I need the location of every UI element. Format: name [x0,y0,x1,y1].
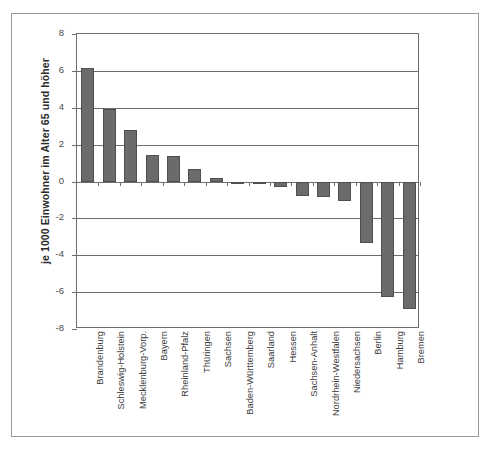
bar [81,68,94,181]
bar [317,182,330,198]
y-tick-label: 6 [59,64,64,75]
x-tick [249,182,250,186]
x-tick [227,182,228,186]
gridline--4 [77,255,418,256]
bar [338,182,351,201]
y-tick-2: 2 [72,145,77,146]
gridline-6 [77,71,418,72]
y-tick-0: 0 [72,182,77,183]
y-tick--2: -2 [72,218,77,219]
x-tick [420,182,421,186]
y-axis-title: je 1000 Einwohner im Alter 65 und höher [39,21,51,301]
bar [360,182,373,244]
x-axis-label-text: Bremen [416,331,426,364]
x-axis-label: Schleswig-Holstein [112,331,122,410]
x-axis-label-text: Niedersachsen [352,331,362,393]
y-tick-label: -8 [56,322,64,333]
bar [253,182,266,184]
bar [124,130,137,182]
x-axis-label-text: Berlin [373,331,383,355]
x-axis-label-text: Mecklenburg-Vorp. [138,331,148,409]
y-tick-label: 4 [59,101,64,112]
x-axis-label-text: Brandenburg [95,331,105,385]
bar [103,109,116,182]
y-tick--8: -8 [72,329,77,330]
x-tick [356,182,357,186]
x-axis-label-text: Hamburg [395,331,405,369]
x-axis-label: Mecklenburg-Vorp. [134,331,144,409]
x-tick [377,182,378,186]
x-axis-label: Bremen [412,331,422,364]
y-tick--4: -4 [72,255,77,256]
x-tick [313,182,314,186]
x-axis-label-text: Thüringen [202,331,212,373]
bar [167,156,180,182]
x-axis-label: Niedersachsen [348,331,358,393]
x-axis-label: Thüringen [198,331,208,373]
bar [188,169,201,182]
y-tick-label: 8 [59,27,64,38]
x-axis-label-text: Sachsen-Anhalt [309,331,319,397]
x-axis-labels: BrandenburgSchleswig-HolsteinMecklenburg… [76,331,419,436]
x-axis-label-text: Hessen [288,331,298,363]
x-axis-label: Bayern [155,331,165,360]
x-tick [206,182,207,186]
x-axis-label: Brandenburg [91,331,101,385]
x-axis-label-text: Rheinland-Pfalz [180,331,190,397]
bar [296,182,309,197]
y-tick--6: -6 [72,292,77,293]
x-axis-label-text: Sachsen [223,331,233,367]
x-axis-label-text: Baden-Württemberg [245,331,255,415]
gridline--6 [77,292,418,293]
plot-area: 86420-2-4-6-8 [76,33,419,328]
x-axis-label: Saarland [262,331,272,368]
x-axis-label-text: Schleswig-Holstein [116,331,126,410]
x-axis-label: Nordrhein-Westfalen [327,331,337,416]
bar [274,182,287,188]
gridline-4 [77,108,418,109]
bar [381,182,394,297]
x-axis-label-text: Saarland [266,331,276,368]
x-axis-label: Sachsen [219,331,229,367]
x-axis-label: Hessen [284,331,294,363]
x-tick [399,182,400,186]
x-axis-label: Berlin [369,331,379,355]
y-tick-label: 2 [59,138,64,149]
x-tick [334,182,335,186]
bar [210,178,223,182]
x-axis-label-text: Bayern [159,331,169,360]
x-tick [141,182,142,186]
y-tick-label: 0 [59,175,64,186]
bar [403,182,416,309]
y-tick-label: -2 [56,211,64,222]
x-tick [270,182,271,186]
bar [146,155,159,182]
bar [231,182,244,184]
y-tick-8: 8 [72,34,77,35]
x-tick [184,182,185,186]
x-tick [98,182,99,186]
x-axis-label: Sachsen-Anhalt [305,331,315,397]
y-tick-6: 6 [72,71,77,72]
y-tick-4: 4 [72,108,77,109]
x-tick [163,182,164,186]
x-tick [120,182,121,186]
x-axis-label: Baden-Württemberg [241,331,251,415]
x-tick [291,182,292,186]
x-axis-label: Hamburg [391,331,401,369]
x-axis-label-text: Nordrhein-Westfalen [331,331,341,416]
chart-figure: je 1000 Einwohner im Alter 65 und höher … [0,0,493,451]
y-tick-label: -4 [56,248,64,259]
y-tick-label: -6 [56,285,64,296]
x-axis-label: Rheinland-Pfalz [176,331,186,397]
